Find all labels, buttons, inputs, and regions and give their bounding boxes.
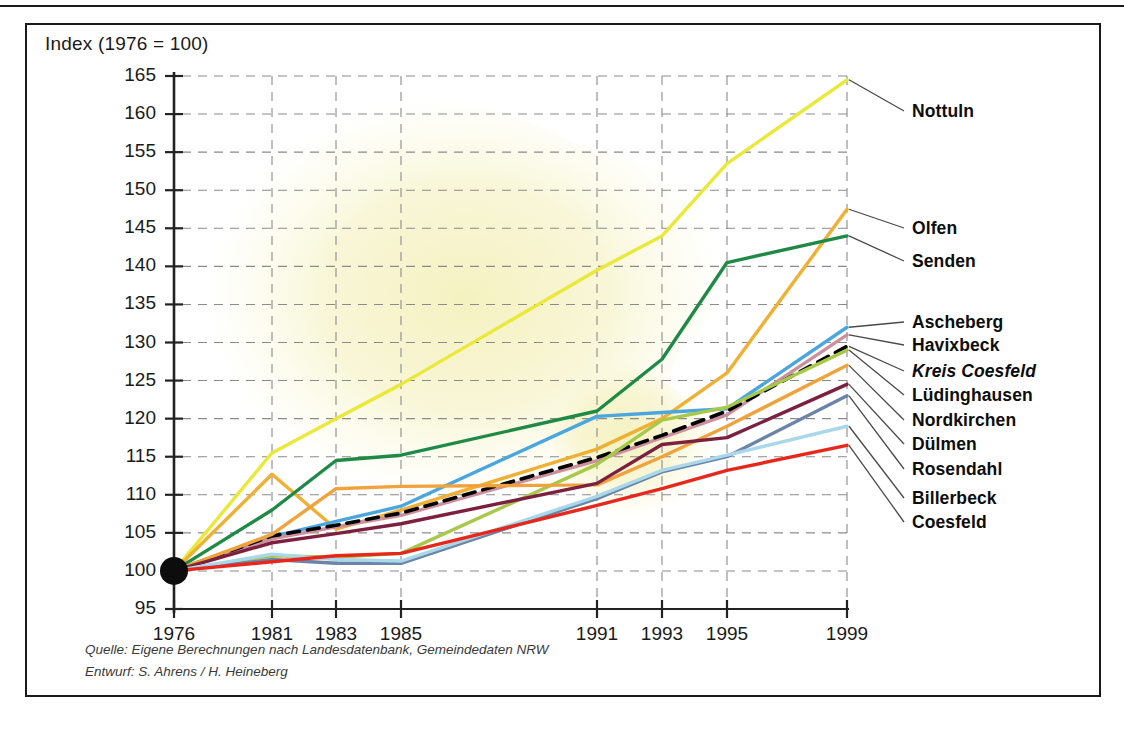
leader-line bbox=[849, 209, 904, 228]
y-tick-label: 145 bbox=[94, 216, 156, 238]
y-tick-label: 115 bbox=[94, 445, 156, 467]
series-label-nordkirchen: Nordkirchen bbox=[912, 410, 1016, 431]
source-note-line-2: Entwurf: S. Ahrens / H. Heineberg bbox=[85, 664, 288, 679]
series-label-havixbeck: Havixbeck bbox=[912, 335, 1000, 356]
y-tick-label: 140 bbox=[94, 254, 156, 276]
leader-line bbox=[849, 350, 904, 395]
series-label-senden: Senden bbox=[912, 251, 976, 272]
label-leader-lines bbox=[849, 80, 904, 522]
chart-figure: Index (1976 = 100) 951001051101151201251… bbox=[0, 0, 1124, 732]
source-note-line-1: Quelle: Eigene Berechnungen nach Landesd… bbox=[85, 642, 549, 657]
series-label-olfen: Olfen bbox=[912, 218, 957, 239]
y-tick-label: 105 bbox=[94, 521, 156, 543]
leader-line bbox=[849, 346, 904, 371]
y-tick-label: 165 bbox=[94, 64, 156, 86]
plot-canvas bbox=[27, 25, 1099, 695]
series-label-coesfeld: Coesfeld bbox=[912, 512, 987, 533]
series-label-d-lmen: Dülmen bbox=[912, 434, 977, 455]
page-top-rule bbox=[0, 5, 1124, 7]
leader-line bbox=[849, 426, 904, 498]
series-label-nottuln: Nottuln bbox=[912, 101, 974, 122]
origin-dot bbox=[160, 557, 188, 585]
y-tick-label: 130 bbox=[94, 331, 156, 353]
x-tick-label: 1999 bbox=[802, 623, 892, 645]
y-tick-label: 150 bbox=[94, 178, 156, 200]
y-tick-label: 160 bbox=[94, 102, 156, 124]
series-label-rosendahl: Rosendahl bbox=[912, 459, 1002, 480]
series-label-billerbeck: Billerbeck bbox=[912, 488, 997, 509]
series-label-ascheberg: Ascheberg bbox=[912, 312, 1003, 333]
y-tick-label: 110 bbox=[94, 483, 156, 505]
background-map-watermark bbox=[204, 92, 729, 519]
origin-marker bbox=[160, 557, 188, 585]
series-label-l-dinghausen: Lüdinghausen bbox=[912, 385, 1033, 406]
y-tick-label: 155 bbox=[94, 140, 156, 162]
y-tick-label: 135 bbox=[94, 292, 156, 314]
x-tick-label: 1995 bbox=[682, 623, 772, 645]
leader-line bbox=[849, 396, 904, 469]
y-tick-label: 125 bbox=[94, 369, 156, 391]
chart-frame: Index (1976 = 100) 951001051101151201251… bbox=[25, 23, 1101, 697]
y-tick-label: 120 bbox=[94, 407, 156, 429]
y-tick-label: 100 bbox=[94, 559, 156, 581]
leader-line bbox=[849, 335, 904, 345]
y-tick-label: 95 bbox=[94, 597, 156, 619]
leader-line bbox=[849, 445, 904, 522]
series-label-kreis-coesfeld: Kreis Coesfeld bbox=[912, 361, 1036, 382]
leader-line bbox=[849, 80, 904, 111]
leader-line bbox=[849, 322, 904, 327]
leader-line bbox=[849, 236, 904, 261]
